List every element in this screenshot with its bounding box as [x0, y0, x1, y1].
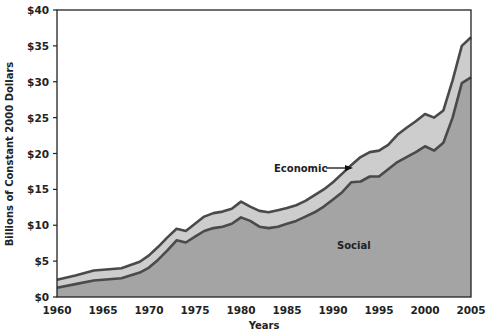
x-tick-label: 1990	[318, 304, 347, 316]
y-tick-label: $30	[27, 76, 49, 88]
economic-label: Economic	[274, 163, 327, 174]
y-tick-label: $0	[34, 291, 49, 303]
y-tick-label: $40	[27, 4, 49, 16]
social-area	[57, 77, 471, 297]
y-tick-label: $20	[27, 148, 49, 160]
x-axis-label: Years	[248, 320, 280, 331]
y-axis-label: Billions of Constant 2000 Dollars	[4, 62, 15, 247]
y-tick-label: $35	[27, 40, 49, 52]
area-chart: $0$5$10$15$20$25$30$35$40196019651970197…	[0, 0, 486, 334]
y-tick-label: $10	[27, 219, 49, 231]
y-tick-label: $15	[27, 183, 49, 195]
x-tick-label: 1995	[364, 304, 393, 316]
x-tick-label: 1965	[88, 304, 117, 316]
x-tick-label: 1960	[42, 304, 71, 316]
x-tick-label: 2005	[456, 304, 485, 316]
y-tick-label: $25	[27, 112, 49, 124]
x-tick-label: 1985	[272, 304, 301, 316]
x-tick-label: 1980	[226, 304, 255, 316]
x-tick-label: 1970	[134, 304, 163, 316]
social-label: Social	[337, 240, 371, 251]
y-tick-label: $5	[34, 255, 49, 267]
x-tick-label: 1975	[180, 304, 209, 316]
x-tick-label: 2000	[410, 304, 439, 316]
